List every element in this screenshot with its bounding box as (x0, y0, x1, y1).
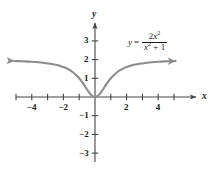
y-tick-label: 3 (84, 36, 89, 45)
numerator-exponent: 2 (157, 30, 160, 36)
y-tick-label: 2 (84, 55, 89, 64)
equation-denominator: x2 + 1 (142, 43, 167, 52)
x-tick-label: 2 (124, 103, 129, 112)
equation-annotation: y = 2x2 x2 + 1 (128, 32, 167, 53)
denominator-tail: + 1 (153, 42, 165, 52)
equation-numerator: 2x2 (147, 32, 163, 41)
y-tick-label: −3 (79, 149, 89, 158)
x-tick-label: −2 (58, 103, 68, 112)
y-tick-label: 1 (84, 74, 89, 83)
denominator-exponent: 2 (148, 41, 151, 47)
y-axis-label: y (92, 10, 96, 20)
x-tick-label: 4 (156, 103, 161, 112)
equation-fraction: 2x2 x2 + 1 (142, 32, 167, 53)
x-axis-label: x (202, 92, 207, 102)
x-axis-group (16, 94, 196, 100)
graph-figure: −4−224321−1−2−3 x y y = 2x2 x2 + 1 (0, 0, 214, 169)
y-axis-group (92, 23, 98, 162)
x-tick-label: −4 (27, 103, 37, 112)
plot-area (0, 0, 214, 169)
y-tick-label: −2 (79, 130, 89, 139)
equation-lhs: y (128, 38, 132, 47)
y-tick-label: −1 (79, 111, 89, 120)
equation-equals-sign: = (134, 38, 139, 47)
